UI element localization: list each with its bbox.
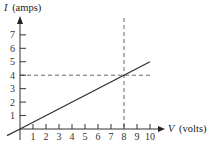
x-axis-arrow-icon: [158, 126, 165, 132]
y-tick-label: 6: [10, 43, 15, 54]
x-tick-label: 10: [145, 131, 155, 142]
data-series: [7, 62, 150, 136]
x-axis-label: V (volts): [168, 123, 207, 135]
y-ticks: 1234567: [10, 29, 26, 121]
x-tick-label: 9: [135, 131, 140, 142]
x-tick-label: 5: [83, 131, 88, 142]
series-line: [7, 62, 150, 136]
y-tick-label: 7: [10, 29, 15, 40]
y-tick-label: 2: [10, 97, 15, 108]
y-tick-label: 3: [10, 83, 15, 94]
x-tick-label: 1: [31, 131, 36, 142]
y-tick-label: 1: [10, 110, 15, 121]
reference-dashed-lines: [20, 18, 153, 129]
y-axis-arrow-icon: [17, 16, 23, 24]
x-tick-label: 2: [44, 131, 49, 142]
x-tick-label: 7: [109, 131, 114, 142]
axes: [17, 16, 165, 140]
x-tick-label: 4: [70, 131, 75, 142]
x-tick-label: 6: [96, 131, 101, 142]
y-axis-label: I (amps): [3, 2, 42, 14]
y-tick-label: 4: [10, 70, 15, 81]
y-tick-label: 5: [10, 56, 15, 67]
iv-chart: 12345678910 1234567 I (amps) V (volts): [0, 0, 207, 145]
x-tick-label: 8: [122, 131, 127, 142]
x-tick-label: 3: [57, 131, 62, 142]
x-ticks: 12345678910: [31, 124, 156, 142]
